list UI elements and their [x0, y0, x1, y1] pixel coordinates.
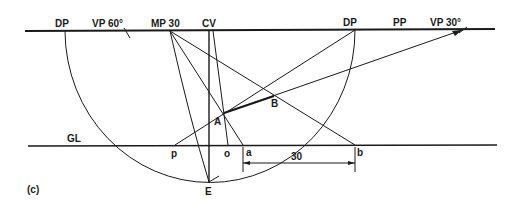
ground-line	[28, 145, 497, 146]
perspective-diagram: DP VP 60° MP 30 CV DP PP VP 30° GL A B E…	[0, 0, 519, 209]
label-point-b: B	[271, 98, 278, 109]
label-dp-left: DP	[55, 18, 69, 29]
label-ground-p: p	[171, 148, 177, 159]
dim-arrow-right	[348, 161, 355, 165]
cv-to-o-line	[213, 31, 228, 145]
vp60-tick	[124, 28, 130, 38]
dim-arrow-left	[243, 161, 250, 165]
line-ab	[224, 96, 274, 113]
p-to-dp-line	[175, 30, 355, 145]
label-ground-b: b	[357, 147, 363, 158]
label-vp30: VP 30°	[430, 17, 461, 28]
mp-to-a-line	[170, 31, 243, 145]
label-gl: GL	[67, 133, 81, 144]
label-mp30: MP 30	[151, 18, 180, 29]
e-tick	[209, 176, 219, 182]
diagram-canvas: DP VP 60° MP 30 CV DP PP VP 30° GL A B E…	[0, 0, 519, 209]
station-point-arc	[65, 30, 355, 183]
figure-caption: (c)	[27, 184, 39, 195]
picture-plane-line	[25, 29, 495, 31]
label-vp60: VP 60°	[92, 18, 123, 29]
measuring-arc	[170, 31, 209, 182]
label-point-e: E	[205, 186, 212, 197]
label-dimension: 30	[291, 151, 303, 162]
label-ground-o: o	[224, 148, 230, 159]
label-dp-right: DP	[343, 17, 357, 28]
vp30-arrowhead	[452, 30, 462, 36]
label-cv: CV	[202, 18, 216, 29]
label-ground-a: a	[246, 147, 252, 158]
label-point-a: A	[214, 116, 221, 127]
label-pp: PP	[393, 17, 407, 28]
